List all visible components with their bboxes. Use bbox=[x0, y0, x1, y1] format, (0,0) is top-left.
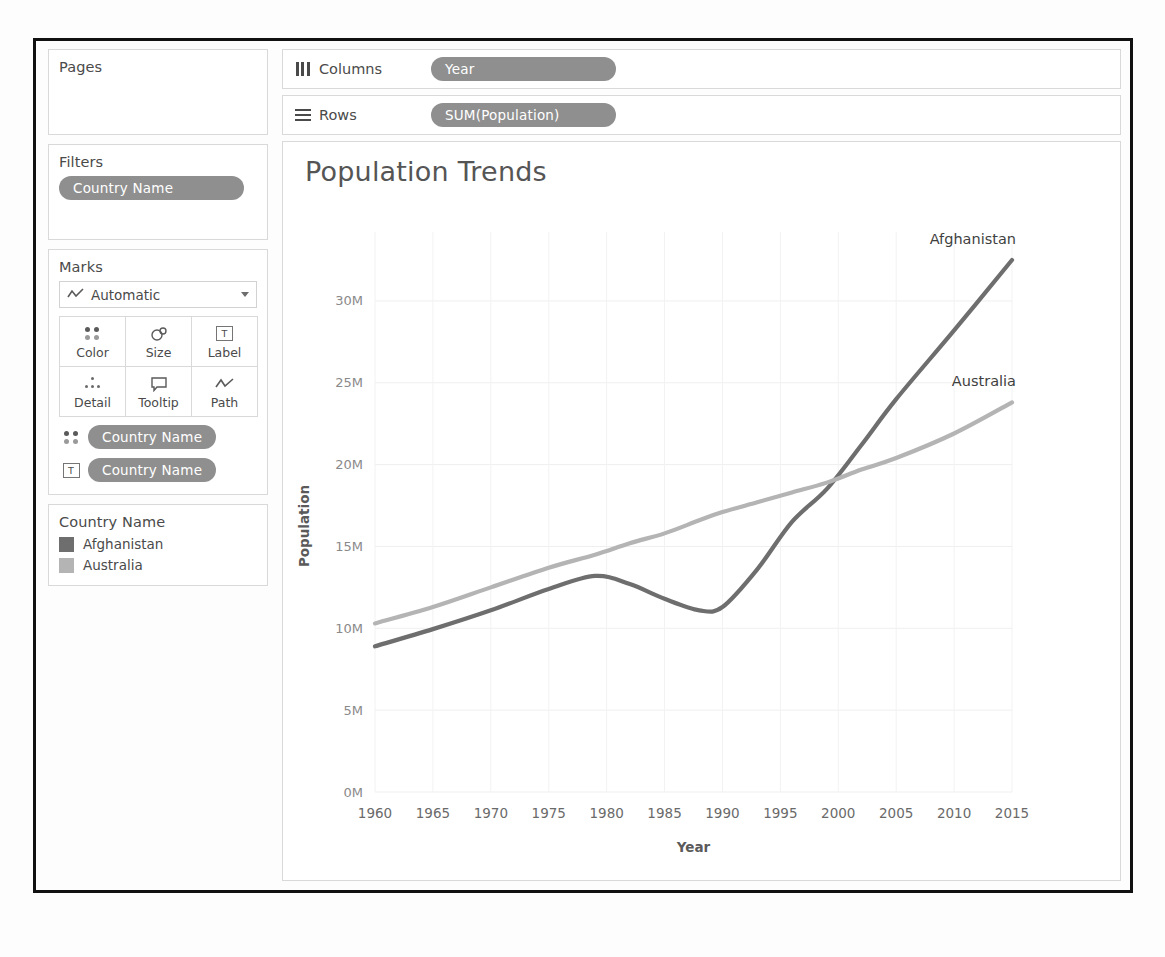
legend-item-label: Afghanistan bbox=[83, 536, 163, 552]
screenshot-root: Pages Filters Country Name Marks Automat… bbox=[0, 0, 1165, 957]
legend-item-label: Australia bbox=[83, 557, 143, 573]
chevron-down-icon[interactable] bbox=[241, 292, 249, 297]
marks-tooltip-label: Tooltip bbox=[138, 395, 179, 410]
mark-type-dropdown[interactable]: Automatic bbox=[59, 281, 257, 308]
legend-item-australia[interactable]: Australia bbox=[59, 557, 257, 573]
pages-card[interactable]: Pages bbox=[48, 49, 268, 135]
svg-text:2015: 2015 bbox=[995, 805, 1029, 821]
tableau-worksheet-frame: Pages Filters Country Name Marks Automat… bbox=[33, 38, 1133, 893]
svg-text:Year: Year bbox=[676, 839, 711, 855]
columns-icon bbox=[293, 62, 312, 76]
marks-button-row-2: Detail Tooltip bbox=[59, 366, 257, 416]
svg-text:2010: 2010 bbox=[937, 805, 971, 821]
svg-text:Population: Population bbox=[296, 485, 312, 567]
chart-canvas[interactable]: Population Trends 0M5M10M15M20M25M30M196… bbox=[282, 141, 1121, 881]
filters-card[interactable]: Filters Country Name bbox=[48, 144, 268, 240]
filters-card-title: Filters bbox=[59, 154, 257, 170]
svg-text:Australia: Australia bbox=[952, 373, 1016, 389]
svg-text:1965: 1965 bbox=[416, 805, 450, 821]
marks-size-button[interactable]: Size bbox=[125, 316, 192, 367]
line-chart-svg: 0M5M10M15M20M25M30M196019651970197519801… bbox=[283, 142, 1120, 880]
pages-card-title: Pages bbox=[59, 59, 257, 75]
tooltip-bubble-icon bbox=[150, 374, 168, 394]
legend-swatch bbox=[59, 558, 74, 573]
marks-detail-label: Detail bbox=[74, 395, 111, 410]
svg-text:20M: 20M bbox=[335, 457, 363, 472]
path-line-icon bbox=[215, 374, 235, 394]
viz-panel: Columns Year Rows SUM(Population) Popula… bbox=[276, 41, 1130, 890]
svg-text:30M: 30M bbox=[335, 293, 363, 308]
svg-text:25M: 25M bbox=[335, 375, 363, 390]
marks-button-row-1: Color Size T bbox=[59, 316, 257, 366]
rows-icon bbox=[293, 109, 312, 122]
marks-tooltip-button[interactable]: Tooltip bbox=[125, 366, 192, 417]
legend-title: Country Name bbox=[59, 514, 257, 530]
marks-size-label: Size bbox=[146, 345, 172, 360]
rows-shelf-label: Rows bbox=[319, 107, 431, 123]
color-dots-icon bbox=[84, 324, 101, 344]
left-shelf-panel: Pages Filters Country Name Marks Automat… bbox=[36, 41, 276, 890]
svg-text:10M: 10M bbox=[335, 621, 363, 636]
marks-card: Marks Automatic Color bbox=[48, 249, 268, 495]
marks-color-button[interactable]: Color bbox=[59, 316, 126, 367]
marks-encoding-color[interactable]: Country Name bbox=[59, 425, 257, 449]
svg-text:0M: 0M bbox=[344, 785, 364, 800]
svg-text:Afghanistan: Afghanistan bbox=[930, 231, 1016, 247]
marks-color-label: Color bbox=[76, 345, 109, 360]
marks-encoding-label[interactable]: T Country Name bbox=[59, 458, 257, 482]
line-chart-icon bbox=[67, 287, 84, 303]
columns-pill-year[interactable]: Year bbox=[431, 57, 616, 81]
marks-label-button[interactable]: T Label bbox=[191, 316, 258, 367]
svg-text:1995: 1995 bbox=[763, 805, 797, 821]
svg-text:2000: 2000 bbox=[821, 805, 855, 821]
svg-text:1980: 1980 bbox=[589, 805, 623, 821]
svg-text:1990: 1990 bbox=[705, 805, 739, 821]
svg-text:5M: 5M bbox=[344, 703, 364, 718]
color-legend-card: Country Name Afghanistan Australia bbox=[48, 504, 268, 586]
marks-path-button[interactable]: Path bbox=[191, 366, 258, 417]
marks-color-field-pill[interactable]: Country Name bbox=[88, 425, 216, 449]
svg-text:1970: 1970 bbox=[474, 805, 508, 821]
svg-text:1960: 1960 bbox=[358, 805, 392, 821]
svg-text:1985: 1985 bbox=[647, 805, 681, 821]
label-t-icon: T bbox=[59, 460, 83, 480]
svg-text:1975: 1975 bbox=[532, 805, 566, 821]
svg-text:15M: 15M bbox=[335, 539, 363, 554]
detail-dots-icon bbox=[84, 374, 102, 394]
marks-card-title: Marks bbox=[59, 259, 257, 275]
mark-type-label: Automatic bbox=[91, 287, 241, 303]
columns-shelf[interactable]: Columns Year bbox=[282, 49, 1121, 89]
legend-swatch bbox=[59, 537, 74, 552]
svg-text:2005: 2005 bbox=[879, 805, 913, 821]
marks-detail-button[interactable]: Detail bbox=[59, 366, 126, 417]
color-dots-icon bbox=[59, 427, 83, 447]
size-circles-icon bbox=[149, 324, 169, 344]
columns-shelf-label: Columns bbox=[319, 61, 431, 77]
marks-path-label: Path bbox=[211, 395, 238, 410]
marks-label-label: Label bbox=[208, 345, 242, 360]
rows-shelf[interactable]: Rows SUM(Population) bbox=[282, 95, 1121, 135]
legend-item-afghanistan[interactable]: Afghanistan bbox=[59, 536, 257, 552]
marks-label-field-pill[interactable]: Country Name bbox=[88, 458, 216, 482]
label-t-icon: T bbox=[216, 324, 233, 344]
rows-pill-sum-population[interactable]: SUM(Population) bbox=[431, 103, 616, 127]
filter-pill-country-name[interactable]: Country Name bbox=[59, 176, 244, 200]
